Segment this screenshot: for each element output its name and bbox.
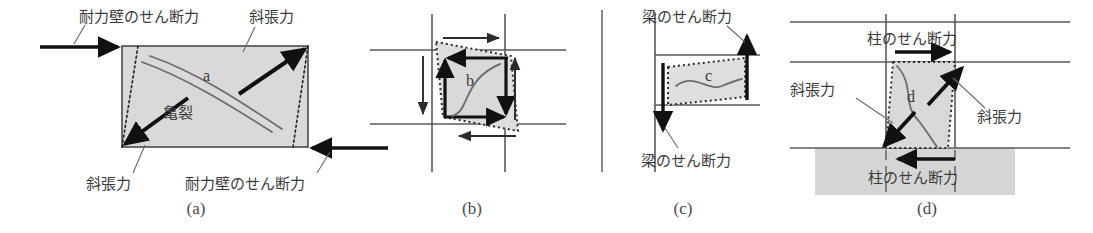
caption-c: (c) — [674, 199, 693, 218]
caption-a: (a) — [187, 199, 206, 218]
wall-bottom-shear-label: 耐力壁のせん断力 — [185, 175, 305, 193]
column-member-label: d — [907, 88, 915, 105]
leader-wall-bottom-shear — [317, 152, 330, 173]
figure-container: 耐力壁のせん断力 斜張力 斜張力 耐力壁のせん断力 a 亀裂 (a) b — [0, 0, 1093, 233]
beam-member-label: c — [705, 67, 712, 84]
leader-beam-top-shear — [727, 26, 745, 42]
panel-d: 柱のせん断力 柱のせん断力 斜張力 斜張力 d (d) — [790, 14, 1070, 218]
wall-top-shear-label: 耐力壁のせん断力 — [79, 8, 199, 26]
leader-column-right-tension — [953, 78, 985, 108]
panel-b: b (b) — [370, 14, 566, 218]
leader-wall-top-shear — [74, 25, 85, 44]
diagram-svg: 耐力壁のせん断力 斜張力 斜張力 耐力壁のせん断力 a 亀裂 (a) b — [0, 0, 1093, 233]
leader-wall-bottom-tension — [133, 145, 145, 173]
column-right-tension-label: 斜張力 — [977, 108, 1022, 126]
panel-c: 梁のせん断力 梁のせん断力 c (c) — [641, 8, 760, 218]
wall-crack-label: 亀裂 — [163, 104, 193, 122]
column-bottom-shear-label: 柱のせん断力 — [868, 169, 958, 187]
column-top-shear-label: 柱のせん断力 — [867, 30, 957, 48]
panel-a: 耐力壁のせん断力 斜張力 斜張力 耐力壁のせん断力 a 亀裂 (a) — [40, 8, 388, 218]
wall-bottom-tension-label: 斜張力 — [86, 175, 131, 193]
beam-bottom-shear-label: 梁のせん断力 — [641, 152, 731, 170]
caption-b: (b) — [462, 199, 482, 218]
joint-member-label: b — [466, 72, 474, 89]
caption-d: (d) — [917, 199, 937, 218]
wall-member-label: a — [203, 67, 210, 84]
leader-beam-bottom-shear — [665, 128, 678, 148]
column-left-tension-label: 斜張力 — [790, 81, 835, 99]
wall-top-tension-label: 斜張力 — [249, 8, 294, 26]
leader-column-left-tension — [856, 98, 893, 123]
beam-top-shear-label: 梁のせん断力 — [642, 8, 732, 26]
